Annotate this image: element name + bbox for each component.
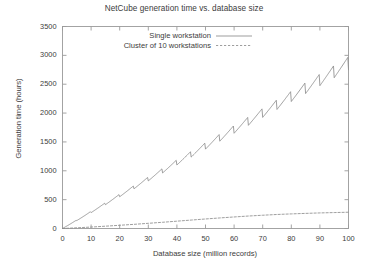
y-tick-label: 1000 bbox=[17, 166, 57, 175]
x-tick-label: 70 bbox=[248, 234, 278, 243]
x-tick-label: 80 bbox=[276, 234, 306, 243]
chart-figure: NetCube generation time vs. database siz… bbox=[0, 0, 368, 272]
x-tick-label: 50 bbox=[191, 234, 221, 243]
y-tick-label: 3000 bbox=[17, 50, 57, 59]
y-tick-label: 1500 bbox=[17, 137, 57, 146]
x-tick-label: 0 bbox=[48, 234, 78, 243]
x-tick-label: 90 bbox=[305, 234, 335, 243]
legend-label-1: Single workstation bbox=[51, 31, 211, 40]
legend-label-2: Cluster of 10 workstations bbox=[51, 41, 211, 50]
y-tick-label: 0 bbox=[17, 224, 57, 233]
x-tick-label: 10 bbox=[76, 234, 106, 243]
series-line-1 bbox=[63, 57, 349, 228]
plot-frame bbox=[63, 27, 349, 229]
x-tick-label: 60 bbox=[219, 234, 249, 243]
x-tick-label: 30 bbox=[133, 234, 163, 243]
x-tick-label: 40 bbox=[162, 234, 192, 243]
y-tick-label: 500 bbox=[17, 195, 57, 204]
y-tick-label: 3500 bbox=[17, 22, 57, 31]
y-tick-label: 2000 bbox=[17, 108, 57, 117]
axis-ticks bbox=[63, 27, 349, 229]
legend-line-samples bbox=[216, 36, 252, 46]
x-tick-label: 20 bbox=[105, 234, 135, 243]
y-tick-label: 2500 bbox=[17, 79, 57, 88]
data-series bbox=[63, 57, 349, 228]
x-tick-label: 100 bbox=[334, 234, 364, 243]
